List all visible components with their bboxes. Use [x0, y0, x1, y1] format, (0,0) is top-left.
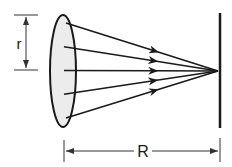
ray-line [66, 91, 154, 118]
radius-dimension: r [14, 15, 38, 70]
ray-line [66, 23, 154, 51]
distance-label: R [137, 143, 149, 160]
ray-line-tail [154, 71, 218, 91]
ray-line-tail [153, 61, 218, 71]
diagram-canvas: r R [0, 0, 232, 167]
ray-line-tail [154, 51, 218, 71]
radius-label: r [17, 35, 22, 52]
ray-line-tail [153, 71, 218, 81]
ray-line [64, 81, 153, 94]
ray-line [64, 47, 153, 61]
distance-dimension: R [64, 138, 220, 162]
rays-group [64, 23, 218, 118]
